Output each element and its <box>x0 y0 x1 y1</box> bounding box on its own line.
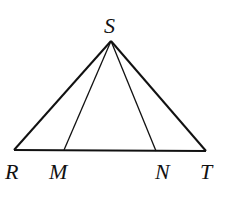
segment-sn <box>111 41 156 151</box>
triangle-diagram: S R M N T <box>0 0 225 204</box>
label-t: T <box>200 159 214 184</box>
segment-sr <box>14 41 111 150</box>
segment-sm <box>64 41 111 150</box>
label-s: S <box>104 13 115 38</box>
label-m: M <box>48 159 69 184</box>
label-n: N <box>154 159 171 184</box>
segment-rt <box>14 150 206 151</box>
label-r: R <box>4 159 19 184</box>
segment-st <box>111 41 206 151</box>
